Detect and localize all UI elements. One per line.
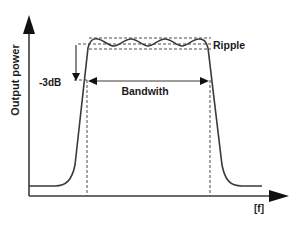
y-axis-label: Output power (9, 44, 21, 116)
y-axis-arrow-icon (23, 15, 35, 34)
y-axis (23, 15, 35, 196)
down-arrow-icon (72, 73, 80, 81)
right-arrow-icon (200, 77, 209, 85)
response-curve (29, 39, 262, 186)
x-axis (29, 190, 289, 202)
bandwidth-label: Bandwith (121, 85, 168, 97)
left-arrow-icon (88, 77, 97, 85)
ripple-label: Ripple (213, 39, 245, 51)
filter-response-diagram: Output power [f] -3dB Bandwith Ripple (0, 0, 302, 225)
x-axis-arrow-icon (269, 190, 289, 202)
minus3db-label: -3dB (39, 77, 61, 88)
x-axis-label: [f] (254, 203, 264, 214)
bandwidth-cutoff-lines (87, 80, 210, 196)
bandwidth-arrow (88, 77, 209, 85)
